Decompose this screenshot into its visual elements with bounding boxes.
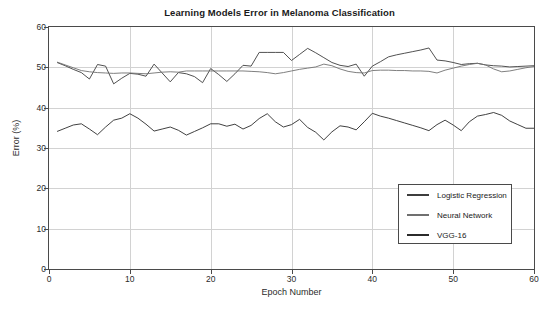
series-line <box>57 113 534 140</box>
legend: Logistic RegressionNeural NetworkVGG-16 <box>398 184 512 244</box>
legend-line-icon <box>407 194 429 196</box>
y-tick-label: 60 <box>0 22 46 32</box>
x-tick-label: 0 <box>29 274 69 284</box>
legend-label: Logistic Regression <box>437 191 507 200</box>
y-tick-label: 30 <box>0 143 46 153</box>
x-tick-mark <box>130 270 131 274</box>
series-line <box>57 62 534 74</box>
x-axis-title: Epoch Number <box>48 287 535 297</box>
legend-item[interactable]: Neural Network <box>399 205 513 225</box>
legend-label: Neural Network <box>437 211 492 220</box>
x-tick-mark <box>372 270 373 274</box>
x-tick-mark <box>534 270 535 274</box>
x-tick-label: 30 <box>272 274 312 284</box>
y-tick-label: 10 <box>0 224 46 234</box>
x-tick-label: 10 <box>110 274 150 284</box>
legend-item[interactable]: VGG-16 <box>399 225 513 245</box>
x-tick-mark <box>453 270 454 274</box>
x-tick-label: 40 <box>352 274 392 284</box>
x-tick-label: 50 <box>433 274 473 284</box>
legend-line-icon <box>407 234 429 236</box>
x-tick-mark <box>211 270 212 274</box>
x-tick-label: 60 <box>514 274 554 284</box>
y-tick-label: 50 <box>0 62 46 72</box>
legend-line-icon <box>407 214 429 216</box>
y-tick-label: 20 <box>0 183 46 193</box>
chart-title: Learning Models Error in Melanoma Classi… <box>0 7 559 18</box>
legend-label: VGG-16 <box>437 231 466 240</box>
x-tick-mark <box>49 270 50 274</box>
legend-item[interactable]: Logistic Regression <box>399 185 513 205</box>
x-tick-label: 20 <box>191 274 231 284</box>
chart-figure: Learning Models Error in Melanoma Classi… <box>0 0 559 309</box>
x-tick-mark <box>292 270 293 274</box>
y-tick-label: 40 <box>0 103 46 113</box>
y-tick-label: 0 <box>0 264 46 274</box>
